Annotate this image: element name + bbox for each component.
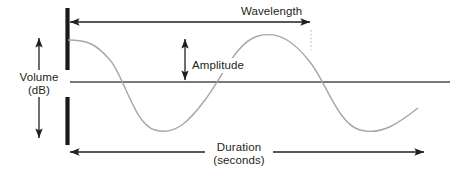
duration-axis-label-line2: (seconds): [213, 154, 264, 166]
sound-wave-diagram: Volume(dB) Wavelength Amplitude Duration…: [0, 0, 456, 172]
volume-axis-label-line2: (dB): [28, 84, 50, 96]
sound-wave-curve: [68, 35, 418, 132]
duration-axis-label-line1: Duration: [217, 141, 261, 153]
amplitude-label: Amplitude: [189, 58, 247, 73]
volume-axis-label-line1: Volume: [20, 71, 59, 83]
volume-axis-label: Volume(dB): [8, 70, 70, 97]
duration-axis-label: Duration(seconds): [205, 140, 273, 167]
wavelength-label: Wavelength: [238, 5, 305, 18]
